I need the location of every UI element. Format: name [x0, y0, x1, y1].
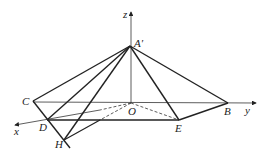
label-y: y — [244, 104, 250, 116]
edge-A-B — [130, 46, 228, 103]
edge-A-E — [130, 46, 179, 120]
x-axis-solid — [15, 110, 100, 125]
label-x: x — [13, 125, 19, 137]
label-O: O — [128, 105, 136, 117]
edge-E-B — [179, 103, 228, 120]
label-H: H — [54, 138, 64, 150]
label-z: z — [122, 8, 128, 20]
edge-H-O-solid — [64, 120, 100, 140]
edge-A-C — [33, 46, 130, 101]
label-D: D — [38, 121, 47, 133]
label-B: B — [224, 105, 231, 117]
edge-A-H — [64, 46, 130, 140]
label-A-prime: A′ — [133, 37, 144, 49]
edge-A-D — [47, 46, 130, 120]
x-axis-dashed — [100, 103, 131, 110]
label-C: C — [22, 95, 30, 107]
edge-O-H-dashed — [100, 103, 131, 120]
label-E: E — [174, 122, 182, 134]
edge-O-E — [131, 103, 179, 120]
geometry-diagram: z y x A′ B C D E H O — [0, 0, 268, 161]
